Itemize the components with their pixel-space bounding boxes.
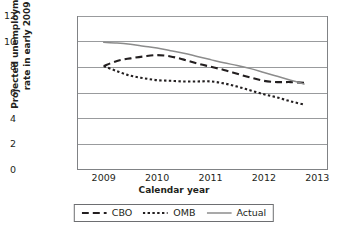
plot-area [77,16,328,170]
y-tick-label: 10 [0,36,16,47]
y-tick-label: 4 [0,113,16,124]
y-tick-label: 8 [0,61,16,72]
y-tick-label: 6 [0,87,16,98]
x-tick-label: 2009 [82,172,126,183]
plot-svg [77,16,328,170]
series-line-cbo [104,55,304,83]
chart-figure: Projected unemployment rate in early 200… [0,0,348,236]
legend-item-cbo[interactable]: CBO [82,207,132,218]
x-axis-label: Calendar year [0,185,348,195]
scan-bleed-artifact [58,0,342,11]
y-tick-label: 2 [0,138,16,149]
legend-swatch-actual-icon [206,209,231,217]
legend-item-omb[interactable]: OMB [143,207,195,218]
x-tick-label: 2013 [295,172,339,183]
series-line-omb [104,66,304,105]
y-axis-label-line2: rate in early 2009 [21,0,33,121]
y-tick-label: 12 [0,10,16,21]
x-tick-label: 2010 [135,172,179,183]
legend-label: CBO [112,207,132,218]
x-tick-label: 2012 [242,172,286,183]
legend-swatch-omb-icon [143,209,168,217]
y-tick-label: 0 [0,164,16,175]
x-tick-label: 2011 [189,172,233,183]
series-line-actual [104,42,304,84]
chart-legend: CBOOMBActual [74,204,274,222]
legend-item-actual[interactable]: Actual [206,207,266,218]
legend-swatch-cbo-icon [82,209,107,217]
data-series-group [104,42,304,104]
legend-label: OMB [173,207,195,218]
gridlines [77,16,328,170]
legend-label: Actual [236,207,266,218]
